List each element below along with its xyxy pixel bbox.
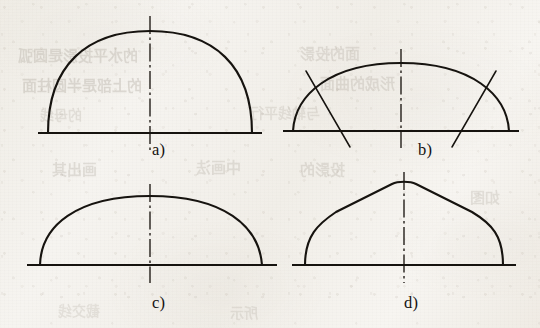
figure-d-label: d) <box>404 293 418 313</box>
figure-d-pointed-peaked-arch <box>0 0 540 328</box>
figure-d-canvas <box>0 0 540 328</box>
scanned-page: 的水平投影是圆弧面的投影的上部是半圆柱面形成的曲面的母线与轴线平行画出其中画法投… <box>0 0 540 328</box>
